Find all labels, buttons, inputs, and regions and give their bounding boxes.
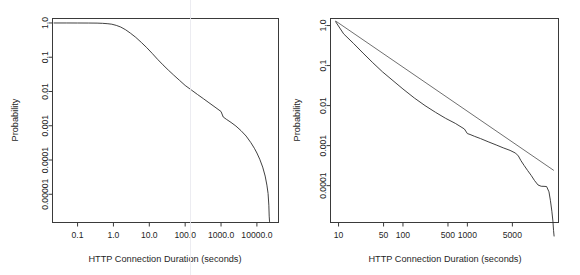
x-tick-label: 500: [441, 230, 456, 240]
x-tick-label: 10.0: [141, 230, 158, 240]
right-plot-frame: [331, 19, 559, 223]
y-tick-label: 1.0: [40, 17, 50, 29]
y-tick-label: 0.001: [318, 135, 328, 157]
x-tick-label: 10000.0: [241, 230, 272, 240]
x-tick-label: 1000: [458, 230, 477, 240]
y-tick-label: 0.001: [40, 115, 50, 137]
y-tick-label: 0.01: [40, 83, 50, 100]
right-y-tick-group: 1.00.10.010.0010.0001: [318, 19, 331, 198]
right-x-axis-title: HTTP Connection Duration (seconds): [368, 254, 521, 264]
right-y-axis-title: Probability: [292, 98, 302, 141]
y-tick-label: 0.0001: [40, 147, 50, 174]
y-tick-label: 0.1: [40, 51, 50, 63]
y-tick-label: 0.1: [318, 59, 328, 71]
two-panel-log-log-figure: 1.00.10.010.0010.00010.00001 0.11.010.01…: [0, 0, 580, 275]
x-tick-label: 0.1: [72, 230, 84, 240]
left-x-axis-title: HTTP Connection Duration (seconds): [88, 254, 241, 264]
right-empirical-tail-curve: [336, 22, 554, 236]
left-y-tick-group: 1.00.10.010.0010.00010.00001: [40, 17, 53, 210]
left-ccdf-curve: [54, 23, 270, 222]
x-tick-label: 50: [379, 230, 389, 240]
left-x-axis: 0.11.010.0100.01000.010000.0: [53, 223, 279, 240]
left-plot-frame: [53, 19, 279, 223]
right-fitted-power-law-line: [336, 21, 554, 170]
x-tick-label: 100: [396, 230, 411, 240]
x-tick-label: 1000.0: [208, 230, 235, 240]
chart-panel-left: 1.00.10.010.0010.00010.00001 0.11.010.01…: [0, 0, 290, 275]
y-tick-label: 1.0: [318, 19, 328, 31]
left-panel-svg: 1.00.10.010.0010.00010.00001 0.11.010.01…: [0, 0, 290, 275]
x-tick-label: 5000: [503, 230, 522, 240]
right-panel-svg: 1.00.10.010.0010.0001 105010050010005000…: [290, 0, 580, 275]
y-tick-label: 0.01: [318, 97, 328, 114]
y-tick-label: 0.0001: [318, 172, 328, 199]
right-y-axis: 1.00.10.010.0010.0001: [318, 19, 331, 223]
left-y-axis: 1.00.10.010.0010.00010.00001: [40, 17, 53, 223]
x-tick-label: 1.0: [107, 230, 119, 240]
left-y-axis-title: Probability: [10, 98, 20, 141]
right-x-tick-group: 105010050010005000: [334, 223, 522, 240]
x-tick-label: 10: [334, 230, 344, 240]
y-tick-label: 0.00001: [40, 179, 50, 210]
left-x-tick-group: 0.11.010.0100.01000.010000.0: [72, 223, 273, 240]
x-tick-label: 100.0: [174, 230, 196, 240]
right-x-axis: 105010050010005000: [331, 223, 559, 240]
chart-panel-right: 1.00.10.010.0010.0001 105010050010005000…: [290, 0, 580, 275]
